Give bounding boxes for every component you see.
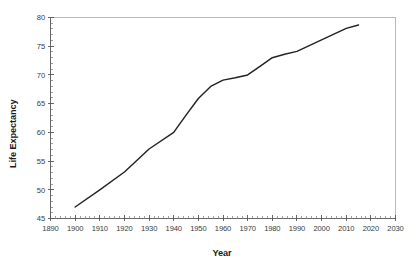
x-tick-label: 1950: [190, 224, 206, 233]
x-tick-label: 2020: [363, 224, 379, 233]
y-tick-label: 55: [37, 157, 45, 166]
x-tick-label: 1930: [141, 224, 157, 233]
y-tick-label: 50: [37, 186, 45, 195]
y-axis-title: Life Expectancy: [8, 99, 18, 168]
x-tick-label: 2010: [338, 224, 354, 233]
y-tick-label: 80: [37, 13, 45, 22]
x-tick-label: 1910: [92, 224, 108, 233]
x-tick-label: 1890: [42, 224, 58, 233]
x-tick-label: 1960: [215, 224, 231, 233]
x-tick-label: 1940: [166, 224, 182, 233]
x-tick-label: 1920: [116, 224, 132, 233]
chart-background: [0, 0, 417, 266]
x-tick-label: 1980: [264, 224, 280, 233]
y-tick-label: 65: [37, 99, 45, 108]
chart-canvas: 4550556065707580 18901900191019201930194…: [0, 0, 417, 266]
x-tick-label: 1990: [289, 224, 305, 233]
x-tick-label: 1970: [239, 224, 255, 233]
y-tick-label: 45: [37, 214, 45, 223]
x-tick-label: 2000: [313, 224, 329, 233]
x-axis-title: Year: [212, 248, 232, 258]
y-tick-label: 75: [37, 42, 45, 51]
y-tick-label: 70: [37, 71, 45, 80]
y-tick-label: 60: [37, 128, 45, 137]
line-chart: 4550556065707580 18901900191019201930194…: [0, 0, 417, 266]
x-tick-label: 1900: [67, 224, 83, 233]
x-tick-label: 2030: [387, 224, 403, 233]
